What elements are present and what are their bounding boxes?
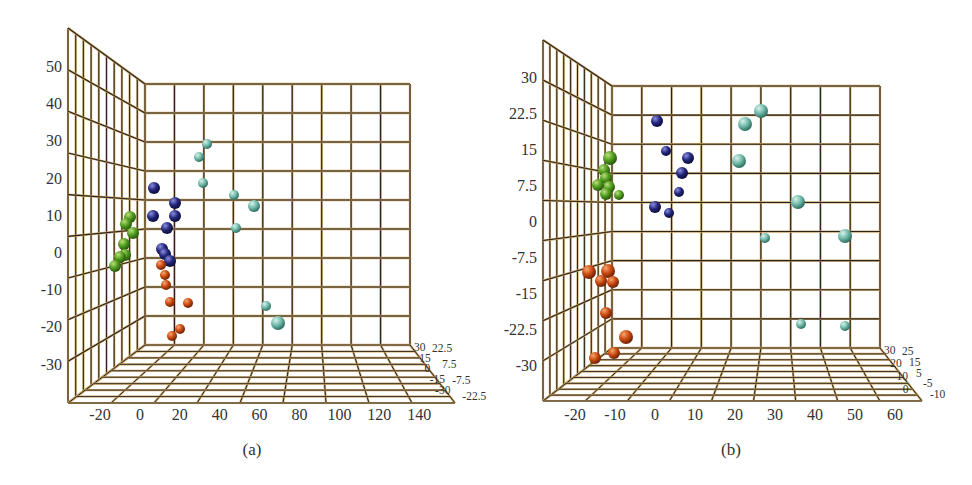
data-point-orange bbox=[183, 298, 193, 308]
y-tick-label: -30 bbox=[41, 356, 62, 373]
y-tick-label: 15 bbox=[521, 141, 537, 158]
figure-canvas: 50403020100-10-20-30-2002040608010012014… bbox=[0, 0, 972, 485]
data-point-navy bbox=[682, 152, 694, 164]
floor-gridline-x bbox=[820, 348, 837, 401]
x-tick-label: -10 bbox=[604, 406, 625, 423]
x-tick-label: 40 bbox=[807, 406, 823, 423]
data-point-navy bbox=[676, 167, 688, 179]
data-point-navy bbox=[161, 222, 173, 234]
z-tick-label: 30 bbox=[884, 344, 896, 356]
x-tick-label: 80 bbox=[292, 406, 308, 423]
data-point-navy bbox=[148, 182, 160, 194]
x-tick-label: 40 bbox=[212, 406, 228, 423]
x-tick-label: -20 bbox=[89, 406, 110, 423]
x-tick-label: 30 bbox=[767, 406, 783, 423]
data-point-teal bbox=[738, 117, 752, 131]
scatter-plot-a: 50403020100-10-20-30-2002040608010012014… bbox=[41, 28, 487, 459]
z-tick-label: 10 bbox=[896, 370, 908, 382]
x-tick-label: 120 bbox=[367, 406, 391, 423]
x-tick-label: 50 bbox=[847, 406, 863, 423]
z-tick-label: -7.5 bbox=[452, 374, 470, 386]
data-point-orange bbox=[165, 297, 175, 307]
data-point-orange bbox=[175, 324, 185, 334]
data-point-navy bbox=[661, 146, 671, 156]
x-tick-label: 60 bbox=[887, 406, 903, 423]
figure: 50403020100-10-20-30-2002040608010012014… bbox=[0, 0, 972, 485]
data-point-orange bbox=[161, 280, 171, 290]
data-point-teal bbox=[838, 229, 852, 243]
floor-gridline-x bbox=[351, 345, 369, 403]
data-point-orange bbox=[600, 307, 612, 319]
data-point-teal bbox=[754, 104, 768, 118]
z-tick-label: 20 bbox=[890, 357, 902, 369]
y-tick-label: -15 bbox=[516, 285, 537, 302]
data-point-green bbox=[600, 188, 612, 200]
scatter-plot-b: 3022.5157.50-7.5-15-22.5-30-20-100102030… bbox=[504, 40, 946, 459]
data-point-navy bbox=[651, 115, 663, 127]
z-tick-label: 5 bbox=[916, 367, 922, 379]
floor-gridline-x bbox=[850, 348, 880, 401]
data-point-navy bbox=[169, 210, 181, 222]
floor-gridline-x bbox=[754, 348, 761, 401]
z-tick-label: -10 bbox=[930, 388, 946, 400]
y-tick-label: 22.5 bbox=[509, 105, 537, 122]
data-point-orange bbox=[619, 330, 633, 344]
x-tick-label: 10 bbox=[687, 406, 703, 423]
x-tick-label: 0 bbox=[136, 406, 144, 423]
y-tick-label: 30 bbox=[521, 69, 537, 86]
data-point-green bbox=[118, 238, 130, 250]
z-tick-label: -22.5 bbox=[462, 390, 486, 402]
floor-gridline-x bbox=[711, 348, 731, 401]
y-tick-label: 30 bbox=[46, 132, 62, 149]
z-tick-label: 7.5 bbox=[442, 358, 457, 370]
y-tick-label: 0 bbox=[529, 213, 537, 230]
y-tick-label: -20 bbox=[41, 318, 62, 335]
data-point-green bbox=[109, 260, 121, 272]
y-tick-label: -10 bbox=[41, 281, 62, 298]
y-tick-label: -22.5 bbox=[504, 321, 537, 338]
data-point-teal bbox=[840, 321, 850, 331]
data-point-teal bbox=[248, 200, 260, 212]
y-tick-label: 0 bbox=[54, 244, 62, 261]
floor-gridline-x bbox=[283, 345, 292, 403]
data-point-teal bbox=[229, 190, 239, 200]
x-tick-label: -20 bbox=[564, 406, 585, 423]
panel-caption: (b) bbox=[721, 440, 741, 459]
panel-caption: (a) bbox=[243, 440, 262, 459]
x-tick-label: 140 bbox=[407, 406, 431, 423]
data-point-teal bbox=[231, 223, 241, 233]
data-point-teal bbox=[760, 233, 770, 243]
floor-gridline-x bbox=[154, 345, 204, 403]
data-point-teal bbox=[271, 316, 285, 330]
x-tick-label: 60 bbox=[252, 406, 268, 423]
data-point-navy bbox=[147, 210, 159, 222]
data-point-navy bbox=[664, 208, 674, 218]
data-point-orange bbox=[607, 276, 619, 288]
data-point-navy bbox=[169, 197, 181, 209]
data-point-orange bbox=[160, 270, 170, 280]
data-point-orange bbox=[582, 265, 596, 279]
z-tick-label: -30 bbox=[435, 384, 451, 396]
floor-gridline-x bbox=[322, 345, 326, 403]
data-point-navy bbox=[649, 201, 661, 213]
y-tick-label: 20 bbox=[46, 170, 62, 187]
floor-gridline-x bbox=[197, 345, 233, 403]
data-point-teal bbox=[198, 178, 208, 188]
floor-gridline-x bbox=[669, 348, 701, 401]
x-tick-label: 0 bbox=[651, 406, 659, 423]
data-point-green bbox=[592, 179, 604, 191]
data-point-orange bbox=[595, 275, 607, 287]
y-tick-label: 40 bbox=[46, 95, 62, 112]
data-point-teal bbox=[202, 139, 212, 149]
z-tick-label: 0 bbox=[903, 383, 909, 395]
floor-gridline-x bbox=[111, 345, 174, 403]
floor-gridline-x bbox=[240, 345, 263, 403]
y-tick-label: -30 bbox=[516, 357, 537, 374]
floor-gridline-x bbox=[381, 345, 412, 403]
y-tick-label: 7.5 bbox=[517, 177, 537, 194]
x-tick-label: 20 bbox=[172, 406, 188, 423]
data-point-navy bbox=[674, 187, 684, 197]
y-tick-label: -7.5 bbox=[512, 249, 537, 266]
data-point-green bbox=[127, 227, 139, 239]
x-tick-label: 20 bbox=[727, 406, 743, 423]
